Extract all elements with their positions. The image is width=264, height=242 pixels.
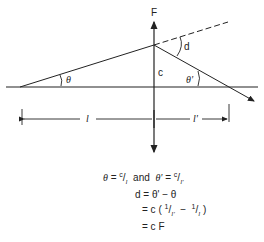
theta-prime-label: θ': [186, 75, 193, 85]
theta-label: θ: [66, 75, 71, 85]
equation-line-4: = c F: [142, 221, 165, 233]
theta-prime-arc: [198, 71, 200, 86]
deviation-arc: [177, 37, 181, 56]
equation-line-3: = c ( 1/l' − 1/l ): [142, 204, 206, 217]
l-label: l: [86, 114, 89, 124]
equation-line-1: θ = c/l and θ' = c/l': [103, 172, 184, 185]
refracted-ray: [154, 45, 254, 101]
lens-diagram: [0, 0, 264, 242]
equation-line-2: d = θ' − θ: [135, 189, 176, 201]
theta-arc: [60, 75, 62, 86]
focal-label: F: [151, 8, 157, 18]
deviation-label: d: [184, 42, 190, 52]
l-prime-label: l': [193, 114, 198, 124]
undeviated-ray-dashed: [154, 22, 228, 45]
height-label: c: [158, 68, 163, 78]
incident-ray: [20, 45, 154, 87]
